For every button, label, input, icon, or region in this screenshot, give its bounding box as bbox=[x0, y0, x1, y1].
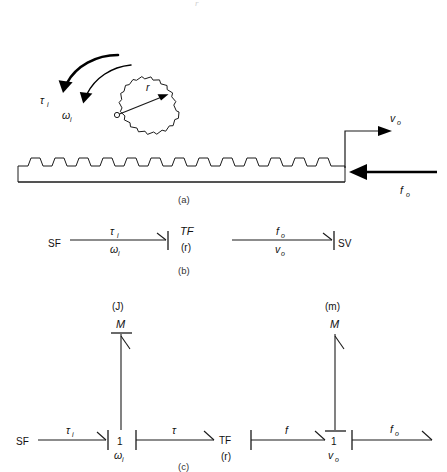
force-out-label: f bbox=[400, 184, 404, 196]
omega-in-label: ω bbox=[62, 109, 70, 121]
panel-c-junction-1-left-flow-sub: i bbox=[122, 456, 124, 463]
panel-c-node-sf: SF bbox=[16, 436, 29, 447]
figure-canvas: r τ i ω i v o f o (a) bbox=[0, 0, 447, 472]
panel-b-bond-left-effort-sub: i bbox=[117, 232, 119, 239]
force-out-subscript: o bbox=[406, 191, 410, 198]
panel-c-caption: (c) bbox=[178, 461, 189, 472]
panel-b-bond-left-effort: τ bbox=[110, 225, 115, 237]
omega-in-subscript: i bbox=[70, 116, 72, 123]
panel-b-bond-left-flow: ω bbox=[110, 243, 118, 255]
radius-arrow-line bbox=[120, 97, 164, 115]
panel-c-bond-out-effort: f bbox=[390, 423, 394, 435]
panel-b-bond-left-flow-sub: i bbox=[118, 250, 120, 257]
panel-c-bond-tf-out-effort: f bbox=[285, 424, 289, 436]
panel-c-bond-sf-halfarrow bbox=[97, 432, 106, 440]
panel-c-bond-tf-in-effort: τ bbox=[172, 424, 177, 436]
panel-b-caption: (b) bbox=[178, 265, 190, 276]
panel-c-bond-tf-in-halfarrow bbox=[204, 431, 214, 440]
velocity-out-subscript: o bbox=[397, 119, 401, 126]
panel-c-inertia-J-label: M bbox=[116, 318, 126, 330]
figure-root: r r τ i ω i bbox=[0, 0, 447, 472]
panel-c-junction-1-left: 1 bbox=[117, 436, 123, 447]
panel-c-bond-out-effort-sub: o bbox=[395, 430, 399, 437]
panel-a-group: r τ i ω i v o f o (a) bbox=[18, 55, 437, 205]
gear-hub-center bbox=[114, 112, 119, 117]
panel-c-inertia-m-modulus: (m) bbox=[325, 301, 340, 312]
panel-b-bond-right-effort-sub: o bbox=[281, 232, 285, 239]
panel-b-node-sf: SF bbox=[48, 238, 61, 249]
panel-b-node-sv: SV bbox=[338, 238, 352, 249]
torque-in-arrowhead bbox=[59, 80, 73, 93]
panel-c-bond-out-halfarrow bbox=[422, 431, 432, 440]
velocity-out-label: v bbox=[390, 112, 396, 124]
torque-in-subscript: i bbox=[47, 101, 49, 108]
panel-c-bond-1-to-J-halfarrow bbox=[121, 336, 130, 349]
panel-c-inertia-m-label: M bbox=[330, 318, 340, 330]
panel-a-caption: (a) bbox=[178, 194, 190, 205]
panel-b-bond-right-halfarrow bbox=[323, 233, 332, 240]
panel-c-group: (J) M (m) M SF τ i 1 ω i bbox=[16, 301, 432, 472]
panel-c-junction-1-left-flow: ω bbox=[114, 449, 122, 461]
panel-b-bond-right-flow-sub: o bbox=[281, 250, 285, 257]
radius-label: r bbox=[146, 81, 150, 93]
panel-c-bond-sf-effort: τ bbox=[66, 424, 71, 436]
panel-c-bond-sf-effort-sub: i bbox=[72, 431, 74, 438]
panel-b-node-tf: TF bbox=[180, 225, 195, 237]
panel-b-group: SF τ i ω i TF (r) f o v o SV (b) bbox=[48, 225, 352, 276]
panel-c-junction-1-right-flow-sub: o bbox=[335, 456, 339, 463]
velocity-out-arrowhead bbox=[378, 126, 392, 136]
panel-c-node-tf-modulus: (r) bbox=[221, 451, 231, 462]
omega-in-arrowhead bbox=[80, 92, 93, 104]
panel-c-junction-1-right-flow: v bbox=[328, 449, 334, 461]
radius-arrow-head bbox=[158, 94, 169, 100]
force-out-arrowhead bbox=[349, 164, 367, 180]
panel-c-node-tf: TF bbox=[219, 435, 231, 446]
panel-c-bond-tf-out-halfarrow bbox=[315, 431, 325, 440]
panel-b-bond-left-halfarrow bbox=[157, 233, 166, 240]
panel-b-node-tf-modulus: (r) bbox=[181, 242, 191, 253]
panel-c-bond-1-to-m-halfarrow bbox=[335, 336, 344, 349]
panel-b-bond-right-effort: f bbox=[276, 225, 280, 237]
torque-in-label: τ bbox=[40, 94, 45, 106]
torque-in-curved-arrow bbox=[67, 55, 118, 83]
rack-body-outline bbox=[18, 158, 345, 182]
panel-c-inertia-J-modulus: (J) bbox=[112, 301, 124, 312]
velocity-out-bracket bbox=[345, 131, 380, 168]
panel-c-junction-1-right: 1 bbox=[331, 436, 337, 447]
